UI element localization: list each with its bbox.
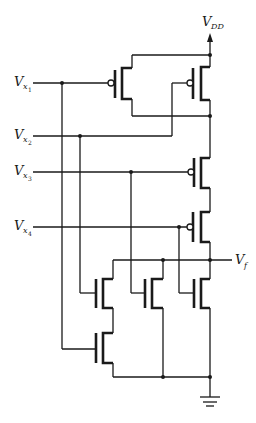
ground-icon bbox=[200, 377, 220, 406]
inverter-bubble-icon bbox=[108, 80, 114, 86]
junction-dot bbox=[129, 170, 133, 174]
junction-dot bbox=[177, 225, 181, 229]
svg-text:2: 2 bbox=[28, 139, 32, 146]
nmos-x2 bbox=[96, 260, 113, 333]
input-label-x4: V x 4 bbox=[14, 218, 32, 237]
inverter-bubble-icon bbox=[187, 224, 193, 230]
svg-text:3: 3 bbox=[28, 175, 32, 182]
vdd-supply: V DD bbox=[202, 14, 224, 55]
pull-down-network bbox=[96, 260, 212, 379]
nmos-x3 bbox=[145, 260, 163, 377]
output-subscript: f bbox=[243, 261, 249, 270]
inverter-bubble-icon bbox=[187, 80, 193, 86]
pmos-x2 bbox=[187, 55, 210, 158]
vdd-subscript: DD bbox=[210, 22, 224, 31]
pull-up-network bbox=[108, 53, 212, 260]
input-label-x3: V x 3 bbox=[14, 163, 32, 182]
junction-dot bbox=[60, 81, 64, 85]
svg-text:4: 4 bbox=[28, 230, 32, 237]
output-node: V f bbox=[113, 252, 249, 270]
vdd-arrow-icon bbox=[207, 33, 213, 42]
svg-text:1: 1 bbox=[28, 86, 32, 93]
inverter-bubble-icon bbox=[188, 169, 194, 175]
pmos-x1 bbox=[108, 55, 132, 116]
pmos-x3 bbox=[188, 158, 210, 212]
cmos-circuit-diagram: V DD V x 1 V x 2 V x 3 V x 4 bbox=[0, 0, 256, 423]
nmos-x1 bbox=[96, 333, 113, 377]
nmos-x4 bbox=[194, 260, 210, 377]
input-label-x2: V x 2 bbox=[14, 127, 32, 146]
pmos-x4 bbox=[187, 212, 210, 260]
junction-dot bbox=[78, 134, 82, 138]
input-label-x1: V x 1 bbox=[14, 74, 32, 93]
